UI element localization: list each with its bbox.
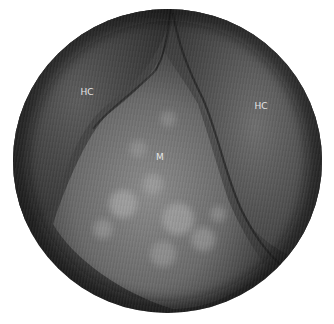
tissue-illustration <box>13 9 322 313</box>
endoscopic-view <box>13 9 322 313</box>
label-hc-left: HC <box>80 87 93 97</box>
label-m: M <box>156 152 164 162</box>
label-hc-right: HC <box>254 101 267 111</box>
